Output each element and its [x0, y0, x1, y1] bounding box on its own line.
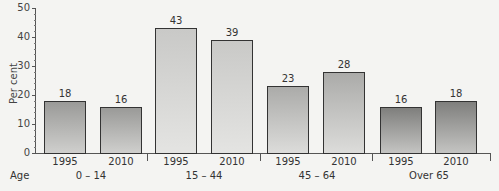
y-tick-label: 20: [10, 90, 30, 100]
bar-15-44-1995: [155, 28, 197, 154]
age-label: Age: [10, 170, 29, 181]
value-label: 16: [100, 94, 142, 105]
group-separator: [147, 153, 148, 161]
year-label: 1995: [44, 156, 86, 167]
group-separator: [372, 153, 373, 161]
y-tick: [32, 95, 36, 96]
y-minor-tick: [34, 147, 36, 148]
bar-over-65-1995: [380, 107, 422, 154]
year-label: 2010: [435, 156, 477, 167]
y-minor-tick: [34, 101, 36, 102]
y-tick-label: 30: [10, 61, 30, 71]
age-group-label: Over 65: [373, 170, 485, 181]
y-minor-tick: [34, 112, 36, 113]
bar-45-64-2010: [323, 72, 365, 154]
y-tick: [32, 8, 36, 9]
age-group-label: 0 – 14: [35, 170, 147, 181]
group-separator: [260, 153, 261, 161]
year-label: 2010: [323, 156, 365, 167]
y-tick: [32, 124, 36, 125]
y-tick-label: 10: [10, 119, 30, 129]
y-minor-tick: [34, 60, 36, 61]
y-minor-tick: [34, 49, 36, 50]
value-label: 43: [155, 15, 197, 26]
y-tick-label: 40: [10, 32, 30, 42]
year-label: 1995: [267, 156, 309, 167]
bar-45-64-1995: [267, 86, 309, 154]
value-label: 18: [44, 88, 86, 99]
value-label: 18: [435, 88, 477, 99]
year-label: 2010: [100, 156, 142, 167]
y-tick-label: 0: [10, 148, 30, 158]
age-group-label: 15 – 44: [148, 170, 260, 181]
y-minor-tick: [34, 78, 36, 79]
y-minor-tick: [34, 89, 36, 90]
y-tick: [32, 37, 36, 38]
bar-over-65-2010: [435, 101, 477, 154]
y-minor-tick: [34, 43, 36, 44]
y-tick: [32, 153, 36, 154]
y-minor-tick: [34, 14, 36, 15]
y-minor-tick: [34, 141, 36, 142]
y-axis: [35, 8, 36, 154]
bar-0-14-1995: [44, 101, 86, 154]
bar-chart: Per cent 01020304050 1819951620104319953…: [0, 0, 499, 191]
y-minor-tick: [34, 107, 36, 108]
age-group-label: 45 – 64: [261, 170, 373, 181]
y-minor-tick: [34, 31, 36, 32]
y-minor-tick: [34, 72, 36, 73]
y-minor-tick: [34, 54, 36, 55]
y-minor-tick: [34, 20, 36, 21]
value-label: 39: [211, 27, 253, 38]
bar-15-44-2010: [211, 40, 253, 154]
y-minor-tick: [34, 136, 36, 137]
bar-0-14-2010: [100, 107, 142, 154]
year-label: 1995: [155, 156, 197, 167]
y-minor-tick: [34, 118, 36, 119]
year-label: 2010: [211, 156, 253, 167]
y-minor-tick: [34, 83, 36, 84]
group-separator: [490, 153, 491, 161]
y-minor-tick: [34, 130, 36, 131]
value-label: 23: [267, 73, 309, 84]
year-label: 1995: [380, 156, 422, 167]
y-tick: [32, 66, 36, 67]
value-label: 16: [380, 94, 422, 105]
y-tick-label: 50: [10, 3, 30, 13]
y-minor-tick: [34, 25, 36, 26]
value-label: 28: [323, 59, 365, 70]
